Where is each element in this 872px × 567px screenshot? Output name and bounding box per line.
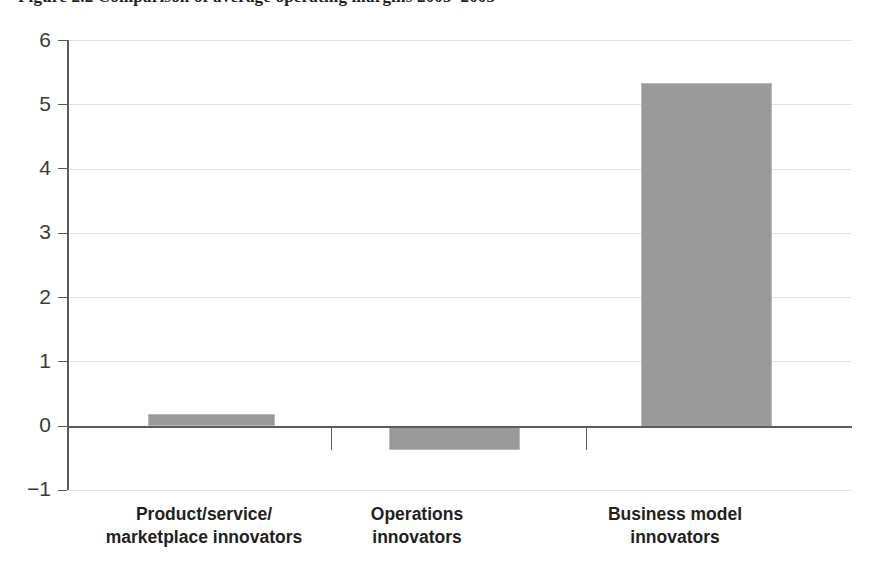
y-axis-tick <box>58 104 67 105</box>
y-axis-tick <box>58 361 67 362</box>
bar-chart: 6 5 4 3 2 1 0 −1 <box>0 0 872 567</box>
y-tick-label: 3 <box>11 221 51 242</box>
gridline-zero-axis <box>67 426 852 428</box>
y-axis-tick <box>58 40 67 41</box>
x-axis-tick <box>586 427 587 450</box>
x-category-label-line: Product/service/ <box>68 503 340 526</box>
y-tick-label: 1 <box>11 350 51 371</box>
y-tick-label: 2 <box>11 286 51 307</box>
x-category-label-line: marketplace innovators <box>68 526 340 549</box>
y-axis-tick-labels: 6 5 4 3 2 1 0 −1 <box>0 0 51 567</box>
x-category-label-line: Operations <box>318 503 516 526</box>
gridline-6 <box>67 40 852 41</box>
bar-product-service-marketplace-innovators[interactable] <box>148 414 275 426</box>
x-category-label-line: innovators <box>560 526 790 549</box>
y-axis-line <box>67 40 69 490</box>
bar-business-model-innovators[interactable] <box>641 83 772 427</box>
y-tick-label: 0 <box>11 414 51 435</box>
plot-area <box>67 40 852 490</box>
y-axis-tick <box>58 168 67 169</box>
y-tick-label: 4 <box>11 157 51 178</box>
x-category-label-operations-innovators: Operations innovators <box>318 503 516 549</box>
x-category-label-line: innovators <box>318 526 516 549</box>
x-category-label-business-model-innovators: Business model innovators <box>560 503 790 549</box>
gridline-minus-1 <box>67 490 852 491</box>
y-axis-tick <box>58 426 67 427</box>
x-category-label-line: Business model <box>560 503 790 526</box>
bar-operations-innovators[interactable] <box>389 427 520 450</box>
y-axis-tick <box>58 490 67 491</box>
x-category-label-product-service-marketplace-innovators: Product/service/ marketplace innovators <box>68 503 340 549</box>
y-axis-tick <box>58 233 67 234</box>
x-axis-tick <box>331 427 332 450</box>
y-tick-label: −1 <box>11 478 51 499</box>
y-tick-label: 6 <box>11 29 51 50</box>
y-axis-tick <box>58 297 67 298</box>
y-tick-label: 5 <box>11 93 51 114</box>
